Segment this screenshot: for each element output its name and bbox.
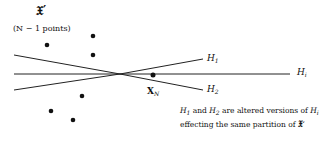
- point-dot: [91, 53, 96, 58]
- h1-main: H: [207, 53, 215, 63]
- point-dot: [45, 43, 50, 48]
- hi-main: H: [297, 67, 305, 77]
- point-dot: [71, 118, 76, 123]
- hyperplane-h2-line: [14, 74, 203, 90]
- set-label: 𝔛′: [36, 4, 46, 18]
- h2-sub: 2: [215, 88, 219, 95]
- h2-label: H2: [207, 84, 219, 95]
- hi-label: Hi: [297, 67, 307, 78]
- point-dot: [91, 34, 96, 39]
- h2-main: H: [207, 84, 215, 94]
- caption-set: 𝔛′: [298, 120, 305, 129]
- point-dot: [49, 109, 54, 114]
- caption-hi-sub: i: [317, 109, 319, 116]
- xn-label: XN: [147, 86, 159, 97]
- caption-line-1: H1 and H2 are altered versions of Hi: [180, 106, 319, 116]
- caption-and: and: [190, 106, 209, 115]
- hi-sub: i: [305, 71, 307, 78]
- point-dot: [80, 94, 85, 99]
- h1-label: H1: [207, 53, 219, 64]
- set-note: (N − 1 points): [13, 24, 71, 33]
- hyperplane-h1-line: [14, 55, 203, 74]
- point-xn-dot: [151, 73, 156, 78]
- caption-rest: are altered versions of: [220, 106, 311, 115]
- xn-main: X: [147, 86, 154, 96]
- h1-sub: 1: [215, 57, 219, 64]
- caption-line-2: effecting the same partition of 𝔛′: [180, 120, 305, 130]
- caption-line2-text: effecting the same partition of: [180, 120, 298, 129]
- xn-sub: N: [154, 90, 159, 97]
